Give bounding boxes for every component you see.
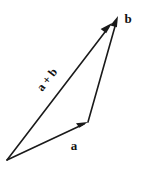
vector-b-label: b [124,11,131,26]
vector-a-label: a [71,138,78,153]
vector-addition-figure: a b a + b [0,0,141,171]
vector-diagram: a b a + b [0,0,141,171]
